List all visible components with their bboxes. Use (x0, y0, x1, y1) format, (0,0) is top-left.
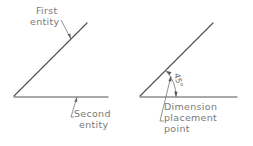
first-entity-label-line2: entity (30, 16, 59, 27)
angle-dimension-text: 45° (172, 72, 184, 88)
angular-dimension-diagram: First entity Second entity 45° Dimension… (0, 0, 253, 146)
first-entity-line (14, 23, 87, 96)
placement-label-line2: placement (164, 112, 217, 123)
second-entity-leader-arrowhead (74, 97, 77, 102)
second-entity-label-line2: entity (79, 119, 108, 130)
placement-label-line3: point (164, 123, 190, 134)
arc-arrowhead-bottom (174, 92, 177, 98)
placement-label-line1: Dimension (164, 101, 217, 112)
placement-leader-arrowhead (168, 76, 171, 82)
second-entity-label-line1: Second (74, 108, 111, 119)
first-entity-label-line1: First (36, 5, 58, 16)
left-diagram: First entity Second entity (14, 5, 111, 130)
first-entity-leader-arrowhead (68, 34, 72, 40)
right-diagram: 45° Dimension placement point (140, 23, 237, 134)
